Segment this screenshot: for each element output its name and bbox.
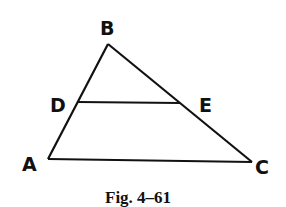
segment-ac — [48, 159, 252, 162]
figure-caption: Fig. 4–61 — [105, 188, 171, 207]
label-e: E — [199, 94, 212, 116]
label-b: B — [100, 17, 114, 39]
label-d: D — [50, 94, 66, 116]
label-a: A — [22, 153, 37, 175]
segment-de — [78, 102, 180, 103]
triangle-diagram: B D E A C Fig. 4–61 — [0, 0, 286, 207]
label-c: C — [255, 156, 269, 178]
